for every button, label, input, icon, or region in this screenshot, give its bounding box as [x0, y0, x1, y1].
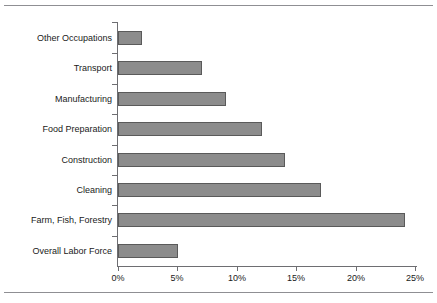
category-label-food-preparation: Food Preparation: [42, 124, 112, 135]
y-axis-tick: [112, 114, 117, 115]
x-axis-tick: [177, 266, 178, 271]
chart-figure: 0% 5% 10% 15% 20% 25% Other Occupations …: [0, 0, 437, 303]
bar-transport: [118, 61, 202, 75]
category-label-overall-labor-force: Overall Labor Force: [32, 246, 112, 257]
bar-overall-labor-force: [118, 244, 178, 258]
y-axis-tick: [112, 53, 117, 54]
x-axis-tick-label: 15%: [276, 273, 316, 284]
bar-other-occupations: [118, 31, 142, 45]
y-axis-tick: [112, 205, 117, 206]
category-label-other-occupations: Other Occupations: [37, 33, 112, 44]
category-label-cleaning: Cleaning: [76, 185, 112, 196]
x-axis-tick: [415, 266, 416, 271]
bar-manufacturing: [118, 92, 226, 106]
y-axis-tick: [112, 84, 117, 85]
x-axis-tick: [356, 266, 357, 271]
y-axis-line: [117, 22, 118, 266]
category-label-manufacturing: Manufacturing: [55, 94, 112, 105]
bar-cleaning: [118, 183, 321, 197]
y-axis-tick: [112, 22, 117, 23]
x-axis-tick-label: 0%: [98, 273, 138, 284]
category-label-construction: Construction: [61, 155, 112, 166]
x-axis-tick: [296, 266, 297, 271]
y-axis-tick: [112, 236, 117, 237]
x-axis-tick-label: 25%: [395, 273, 435, 284]
bar-food-preparation: [118, 122, 262, 136]
category-label-farm-fish-forestry: Farm, Fish, Forestry: [31, 215, 112, 226]
x-axis-line: [117, 266, 417, 267]
x-axis-tick-label: 20%: [336, 273, 376, 284]
category-label-transport: Transport: [74, 63, 112, 74]
y-axis-tick: [112, 145, 117, 146]
y-axis-tick: [112, 175, 117, 176]
x-axis-tick: [118, 266, 119, 271]
x-axis-tick-label: 5%: [157, 273, 197, 284]
x-axis-tick-label: 10%: [217, 273, 257, 284]
x-axis-tick: [237, 266, 238, 271]
bar-construction: [118, 153, 285, 167]
plot-area: 0% 5% 10% 15% 20% 25% Other Occupations …: [0, 0, 437, 303]
bar-farm-fish-forestry: [118, 213, 405, 227]
